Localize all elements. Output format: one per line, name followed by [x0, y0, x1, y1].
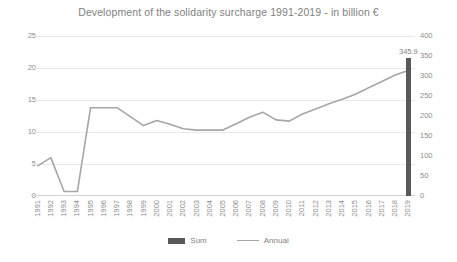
x-axis-tick: 2001: [166, 200, 174, 217]
x-axis-tick: 2015: [351, 200, 359, 217]
x-axis-tick: 2005: [219, 200, 227, 217]
x-axis-tick: 1996: [100, 200, 108, 217]
x-axis-tick: 2017: [378, 200, 386, 217]
x-axis-tick: 1993: [60, 200, 68, 217]
y-axis-right-tick: 400: [420, 32, 446, 40]
y-axis-right-tick: 0: [420, 192, 446, 200]
x-axis-tick: 2003: [193, 200, 201, 217]
x-axis-tick: 2011: [298, 200, 306, 216]
y-axis-right-tick: 200: [420, 112, 446, 120]
y-axis-right-tick: 100: [420, 152, 446, 160]
x-axis-tick: 2004: [206, 200, 214, 217]
sum-bar: [406, 58, 411, 196]
chart-legend: Sum Annual: [0, 236, 457, 245]
x-axis-tick: 2014: [338, 200, 346, 217]
y-axis-right-tick: 150: [420, 132, 446, 140]
x-axis-tick: 2012: [312, 200, 320, 217]
annual-line-series: [31, 36, 415, 196]
y-axis-right-tick: 50: [420, 172, 446, 180]
x-axis-tick: 2009: [272, 200, 280, 217]
x-axis-tick: 1992: [47, 200, 55, 217]
chart-title: Development of the solidarity surcharge …: [0, 6, 457, 18]
sum-bar-value-label: 345.9: [388, 47, 428, 56]
x-axis-tick: 2008: [259, 200, 267, 217]
x-axis-tick: 1998: [126, 200, 134, 217]
x-axis-tick: 2010: [285, 200, 293, 217]
x-axis-tick: 2002: [179, 200, 187, 217]
legend-label-sum: Sum: [190, 236, 206, 245]
x-axis-tick: 2007: [245, 200, 253, 217]
x-axis-tick: 2018: [391, 200, 399, 217]
plot-area: [31, 36, 415, 196]
chart-container: Development of the solidarity surcharge …: [0, 0, 457, 262]
x-axis-tick: 2013: [325, 200, 333, 217]
x-axis-tick: 1997: [113, 200, 121, 217]
legend-label-annual: Annual: [264, 236, 289, 245]
x-axis-tick: 1991: [34, 200, 42, 217]
y-axis-right-tick: 250: [420, 92, 446, 100]
x-axis-tick: 2000: [153, 200, 161, 217]
legend-line-swatch-icon: [237, 240, 259, 241]
legend-item-sum: Sum: [168, 236, 206, 245]
x-axis-tick: 2006: [232, 200, 240, 217]
y-axis-right-tick: 300: [420, 72, 446, 80]
x-axis-tick: 1999: [140, 200, 148, 217]
legend-bar-swatch-icon: [168, 238, 185, 244]
x-axis-tick: 2019: [404, 200, 412, 217]
x-axis-tick: 1994: [73, 200, 81, 217]
x-axis-tick: 1995: [87, 200, 95, 217]
legend-item-annual: Annual: [237, 236, 289, 245]
x-axis-tick: 2016: [365, 200, 373, 217]
